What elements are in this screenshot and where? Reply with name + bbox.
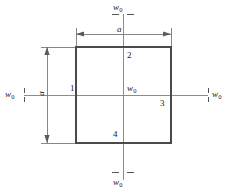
load-label-bottom: w0 <box>113 178 122 187</box>
arrowhead-top <box>44 47 49 55</box>
node-label-3: 3 <box>160 99 165 108</box>
load-label-center: w0 <box>127 84 136 93</box>
plate-load-diagram: w0 w0 w0 w0 w0 a a 1 2 3 4 <box>0 0 230 194</box>
dimension-label-vertical: a <box>37 89 46 98</box>
load-label-left: w0 <box>5 90 14 99</box>
node-label-2: 2 <box>127 51 132 60</box>
load-tick-marks <box>24 14 208 172</box>
dimension-label-horizontal: a <box>117 25 122 34</box>
arrowhead-right <box>163 31 171 36</box>
arrowhead-bottom <box>44 135 49 143</box>
load-label-right: w0 <box>212 90 221 99</box>
diagram-canvas <box>0 0 230 194</box>
node-label-4: 4 <box>113 130 118 139</box>
axis-lines <box>24 14 208 180</box>
arrowhead-left <box>76 31 84 36</box>
node-label-1: 1 <box>70 84 75 93</box>
load-label-top: w0 <box>113 3 122 12</box>
